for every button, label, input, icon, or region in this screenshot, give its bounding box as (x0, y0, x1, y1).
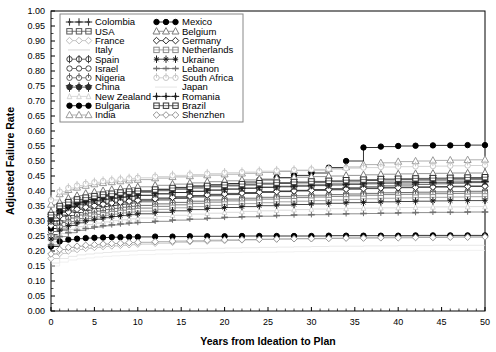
marker-dot (171, 191, 174, 194)
y-tick-label: 0.70 (27, 96, 45, 106)
marker-dot (137, 194, 140, 197)
marker-dot (466, 180, 469, 183)
marker-dot (84, 201, 87, 204)
marker-circle (163, 19, 168, 24)
y-tick-label: 0.10 (27, 276, 45, 286)
y-tick-label: 0.40 (27, 186, 45, 196)
marker-dot (414, 181, 417, 184)
marker-circle (378, 144, 383, 149)
marker-circle (86, 66, 91, 71)
marker-dot (76, 203, 79, 206)
legend-label: India (95, 109, 116, 120)
marker-circle (76, 66, 81, 71)
series-line (51, 200, 485, 239)
y-tick-label: 0.20 (27, 246, 45, 256)
marker-circle (74, 236, 79, 241)
y-tick-label: 0.45 (27, 171, 45, 181)
marker-dot (258, 186, 261, 189)
marker-circle (76, 103, 81, 108)
x-tick-label: 25 (263, 317, 273, 327)
x-tick-label: 50 (480, 317, 490, 327)
marker-circle (343, 158, 348, 163)
marker-circle (67, 103, 72, 108)
marker-dot (275, 186, 278, 189)
x-tick-label: 5 (92, 317, 97, 327)
series-line (51, 235, 485, 246)
marker-circle (448, 143, 453, 148)
series-line (51, 250, 485, 266)
y-tick-label: 0.75 (27, 81, 45, 91)
x-tick-label: 40 (393, 317, 403, 327)
y-tick-label: 0.00 (27, 306, 45, 316)
marker-dot (93, 199, 96, 202)
marker-circle (413, 143, 418, 148)
x-tick-label: 0 (48, 317, 53, 327)
marker-dot (432, 181, 435, 184)
marker-dot (155, 95, 158, 98)
marker-dot (310, 184, 313, 187)
marker-circle (118, 235, 123, 240)
y-tick-label: 0.55 (27, 141, 45, 151)
y-tick-label: 0.90 (27, 36, 45, 46)
marker-dot (128, 195, 131, 198)
marker-dot (68, 21, 71, 24)
marker-dot (189, 190, 192, 193)
marker-triangle (465, 204, 470, 209)
marker-dot (78, 21, 81, 24)
marker-circle (465, 142, 470, 147)
y-tick-label: 0.25 (27, 231, 45, 241)
failure-rate-line-chart: 0.000.050.100.150.200.250.300.350.400.45… (0, 0, 496, 352)
marker-dot (380, 182, 383, 185)
marker-diamond (48, 251, 55, 258)
marker-dot (293, 185, 296, 188)
y-tick-label: 0.95 (27, 21, 45, 31)
series-line (51, 179, 485, 221)
legend-label: Shenzhen (182, 109, 225, 120)
y-tick-label: 1.00 (27, 6, 45, 16)
series-line (51, 212, 485, 245)
marker-dot (50, 220, 53, 223)
y-tick-label: 0.65 (27, 111, 45, 121)
marker-circle (83, 235, 88, 240)
data-layer (47, 142, 488, 266)
x-tick-label: 35 (350, 317, 360, 327)
marker-circle (361, 145, 366, 150)
marker-dot (102, 198, 105, 201)
marker-circle (86, 103, 91, 108)
marker-circle (67, 66, 72, 71)
x-tick-label: 10 (133, 317, 143, 327)
y-tick-label: 0.30 (27, 216, 45, 226)
marker-dot (223, 188, 226, 191)
marker-dot (206, 189, 209, 192)
marker-dot (397, 182, 400, 185)
series-spain (48, 182, 487, 229)
x-tick-label: 20 (220, 317, 230, 327)
x-tick-label: 45 (437, 317, 447, 327)
y-tick-label: 0.80 (27, 66, 45, 76)
y-tick-label: 0.35 (27, 201, 45, 211)
marker-dot (87, 21, 90, 24)
marker-circle (109, 235, 114, 240)
series-line (51, 196, 485, 237)
y-tick-label: 0.15 (27, 261, 45, 271)
marker-dot (345, 183, 348, 186)
y-tick-label: 0.60 (27, 126, 45, 136)
marker-dot (119, 196, 122, 199)
marker-dot (484, 180, 487, 183)
marker-dot (174, 95, 177, 98)
marker-dot (241, 187, 244, 190)
series-japan (51, 250, 485, 266)
marker-circle (100, 235, 105, 240)
series-line (51, 186, 485, 224)
series-italy (51, 245, 485, 263)
marker-triangle (413, 204, 418, 209)
marker-dot (165, 95, 168, 98)
series-line (51, 245, 485, 263)
marker-circle (482, 142, 487, 147)
marker-circle (430, 143, 435, 148)
marker-circle (92, 235, 97, 240)
x-axis-title: Years from Ideation to Plan (200, 335, 335, 347)
marker-dot (449, 181, 452, 184)
chart-legend: ColombiaUSAFranceItalySpainIsraelNigeria… (60, 14, 243, 122)
marker-circle (154, 19, 159, 24)
